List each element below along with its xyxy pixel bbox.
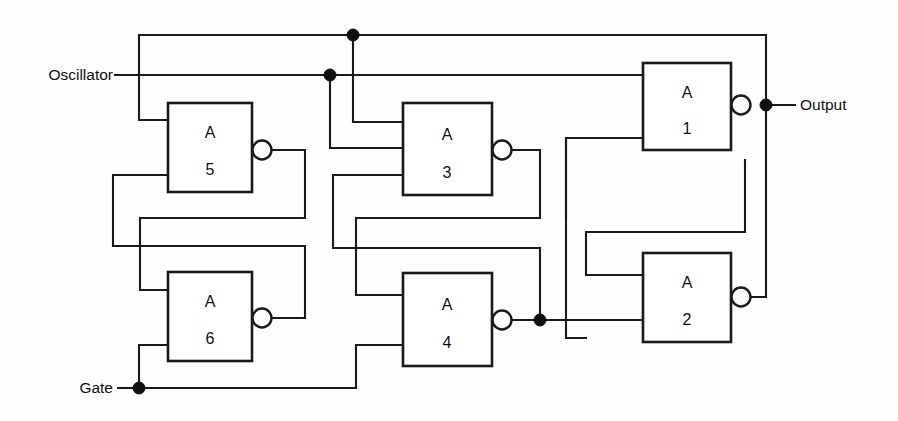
schematic-diagram: A 5 A 6 A 3 A 4 A 1: [0, 0, 898, 421]
wire-gate-to-a6-in2: [139, 345, 168, 388]
gate-a3[interactable]: A 3: [403, 103, 512, 195]
gate-a6-output-bubble-icon: [253, 309, 272, 328]
gate-a5-body[interactable]: [168, 103, 252, 192]
junction-a4-output-node: [534, 314, 546, 326]
gate-a5-number: 5: [206, 161, 215, 178]
junction-gate-node: [133, 382, 145, 394]
gate-a1[interactable]: A 1: [643, 63, 751, 150]
gate-a5[interactable]: A 5: [168, 103, 272, 192]
wire-a3-out-to-a1-in2: [566, 138, 643, 218]
gate-a2[interactable]: A 2: [643, 253, 751, 342]
gate-a3-number: 3: [443, 164, 452, 181]
gate-a3-output-bubble-icon: [493, 141, 512, 160]
gate-a2-designator: A: [682, 274, 693, 291]
gate-a6-number: 6: [206, 330, 215, 347]
gate-a3-designator: A: [442, 126, 453, 143]
junction-osc-top-tap: [347, 29, 359, 41]
gate-a1-output-bubble-icon: [732, 96, 751, 115]
output-port-label: Output: [800, 96, 847, 113]
wire-feedback-to-a3-in1: [353, 35, 403, 122]
gate-a3-body[interactable]: [403, 103, 492, 195]
gate-a6-designator: A: [205, 293, 216, 310]
gate-a4[interactable]: A 4: [403, 273, 512, 366]
gate-a4-designator: A: [442, 296, 453, 313]
gate-a2-output-bubble-icon: [732, 288, 751, 307]
gate-port-label: Gate: [79, 379, 113, 396]
oscillator-port-label: Oscillator: [48, 66, 113, 83]
gate-a2-number: 2: [683, 311, 692, 328]
gate-a1-number: 1: [683, 120, 692, 137]
gate-a1-designator: A: [682, 84, 693, 101]
gate-a4-output-bubble-icon: [493, 311, 512, 330]
gate-a6-body[interactable]: [168, 272, 252, 361]
gate-a5-output-bubble-icon: [253, 141, 272, 160]
schematic-canvas: A 5 A 6 A 3 A 4 A 1: [0, 0, 898, 421]
gate-a6[interactable]: A 6: [168, 272, 272, 361]
gate-a2-body[interactable]: [643, 253, 731, 342]
junction-osc-mid-tap: [324, 69, 336, 81]
gate-a5-designator: A: [205, 124, 216, 141]
wire-a2-out-to-output-node: [751, 265, 766, 297]
wire-osc-to-a3-in2: [330, 75, 403, 148]
wire-a1-in2-riser: [566, 138, 586, 338]
gate-a4-number: 4: [443, 334, 452, 351]
gate-a4-body[interactable]: [403, 273, 492, 366]
junction-output-node: [760, 99, 772, 111]
